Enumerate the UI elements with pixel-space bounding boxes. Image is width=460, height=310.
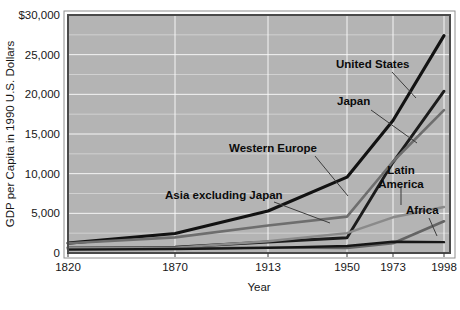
y-axis-tick-label: 10,000 <box>25 168 60 180</box>
series-label-japan: Japan <box>337 95 370 107</box>
series-label-africa: Africa <box>406 204 439 216</box>
series-label-latin-america-line2: America <box>378 178 424 190</box>
y-axis-tick-label: 15,000 <box>25 128 60 140</box>
series-label-latin-america: Latin <box>387 164 414 176</box>
x-axis-title: Year <box>247 281 270 293</box>
series-label-asia-excluding-japan: Asia excluding Japan <box>165 189 283 201</box>
y-axis-tick-label: $30,000 <box>18 9 60 21</box>
y-axis-title: GDP per Capita in 1990 U.S. Dollars <box>4 41 16 228</box>
chart-container: 05,00010,00015,00020,00025,000$30,000182… <box>0 0 460 310</box>
gdp-per-capita-line-chart: 05,00010,00015,00020,00025,000$30,000182… <box>0 0 460 310</box>
series-label-united-states: United States <box>336 58 410 70</box>
y-axis-tick-label: 20,000 <box>25 88 60 100</box>
x-axis-tick-label: 1950 <box>334 261 360 273</box>
x-axis-tick-label: 1820 <box>55 261 81 273</box>
x-axis-tick-label: 1870 <box>162 261 188 273</box>
y-axis-tick-label: 5,000 <box>31 207 60 219</box>
y-axis-tick-label: 25,000 <box>25 49 60 61</box>
y-axis-tick-label: 0 <box>54 247 60 259</box>
x-axis-tick-label: 1998 <box>431 261 457 273</box>
x-axis-tick-label: 1973 <box>380 261 406 273</box>
x-axis-tick-label: 1913 <box>255 261 281 273</box>
series-label-western-europe: Western Europe <box>229 142 317 154</box>
